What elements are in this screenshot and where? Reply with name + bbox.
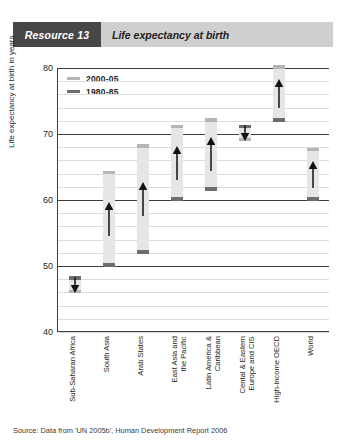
bar-group [171, 67, 183, 331]
bar-group [273, 67, 285, 331]
gridline-minor [58, 226, 329, 227]
cap-2000-05 [137, 144, 149, 148]
x-axis-label: World [306, 336, 315, 356]
arrow-down-icon [71, 277, 80, 293]
x-axis-label: Sub-Saharan Africa [68, 336, 77, 402]
chart-container: Life expectancy at birth in years 405060… [13, 60, 333, 340]
gridline-major [58, 266, 329, 267]
cap-1980-85 [273, 118, 285, 122]
cap-1980-85 [103, 263, 115, 267]
cap-2000-05 [273, 65, 285, 69]
y-axis-tick-label: 40 [43, 327, 53, 337]
cap-1980-85 [171, 197, 183, 201]
bar-group [205, 67, 217, 331]
y-axis-tick-label: 80 [43, 63, 53, 73]
resource-number-tag: Resource 13 [13, 22, 101, 47]
x-axis-label: Cental & Eastern Europe and CIS [238, 336, 256, 393]
x-axis-label: High-income OECD [272, 336, 281, 403]
arrow-up-icon [173, 146, 182, 180]
gridline-minor [58, 319, 329, 320]
resource-banner: Resource 13 Life expectancy at birth [13, 22, 333, 47]
cap-2000-05 [171, 125, 183, 129]
y-axis-tick-label: 70 [43, 129, 53, 139]
arrow-up-icon [139, 182, 148, 216]
gridline-minor [58, 187, 329, 188]
bar-group [69, 67, 81, 331]
x-axis-labels: Sub-Saharan AfricaSouth AsiaArab StatesE… [57, 336, 329, 428]
gridline-minor [58, 108, 329, 109]
bar-group [137, 67, 149, 331]
bar-group [307, 67, 319, 331]
gridline-minor [58, 332, 329, 333]
arrow-up-icon [275, 79, 284, 108]
gridline-minor [58, 174, 329, 175]
cap-1980-85 [137, 250, 149, 254]
bar-group [103, 67, 115, 331]
x-axis-label: Arab States [136, 336, 145, 376]
arrow-down-icon [241, 125, 250, 141]
plot-area: 2000-051980-85 [57, 68, 329, 332]
gridline-minor [58, 279, 329, 280]
cap-1980-85 [307, 197, 319, 201]
cap-1980-85 [205, 187, 217, 191]
gridline-minor [58, 81, 329, 82]
cap-2000-05 [103, 171, 115, 175]
gridline-minor [58, 121, 329, 122]
cap-2000-05 [307, 148, 319, 152]
gridline-major [58, 134, 329, 135]
x-axis-label: East Asia and the Pacific [170, 336, 188, 382]
gridline-minor [58, 160, 329, 161]
gridline-minor [58, 253, 329, 254]
bar-group [239, 67, 251, 331]
x-axis-label: South Asia [102, 336, 111, 372]
arrow-up-icon [309, 161, 318, 188]
gridline-major [58, 200, 329, 201]
gridline-major [58, 68, 329, 69]
y-axis-ticks: 4050607080 [27, 60, 53, 332]
gridline-minor [58, 213, 329, 214]
y-axis-tick-label: 60 [43, 195, 53, 205]
gridline-minor [58, 94, 329, 95]
gridline-minor [58, 292, 329, 293]
cap-2000-05 [205, 118, 217, 122]
y-axis-title: Life expectancy at birth in years [7, 0, 16, 148]
arrow-up-icon [207, 137, 216, 171]
gridline-minor [58, 147, 329, 148]
arrow-up-icon [105, 202, 114, 236]
gridline-minor [58, 306, 329, 307]
source-note: Source: Data from 'UN 2005b', Human Deve… [13, 426, 227, 435]
resource-title: Life expectancy at birth [101, 22, 333, 47]
x-axis-label: Latin America & Caribbean [204, 336, 222, 389]
gridline-minor [58, 240, 329, 241]
y-axis-tick-label: 50 [43, 261, 53, 271]
